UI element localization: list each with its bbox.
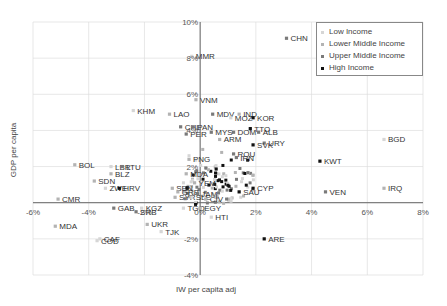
data-point: [73, 163, 76, 166]
data-point: [382, 138, 385, 141]
data-label: ALB: [263, 128, 278, 137]
cluster-point: [238, 167, 241, 170]
y-tick-label: -4%: [184, 271, 198, 280]
data-point: [210, 131, 213, 134]
data-point: [171, 187, 174, 190]
cluster-point: [222, 185, 225, 188]
cluster-point: [215, 164, 218, 167]
data-point: [263, 237, 266, 240]
y-tick-label: -2%: [184, 235, 198, 244]
legend-marker-icon: [321, 67, 324, 70]
data-point: [112, 207, 115, 210]
data-point: [146, 223, 149, 226]
cluster-point: [240, 180, 243, 183]
data-point: [104, 187, 107, 190]
x-axis-title: IW per capita adj: [176, 285, 236, 294]
data-point: [257, 131, 260, 134]
data-label: TJK: [165, 228, 180, 237]
cluster-point: [252, 178, 255, 181]
x-tick-label: -6%: [26, 208, 40, 217]
data-point: [251, 143, 254, 146]
y-tick-label: 2%: [187, 163, 199, 172]
cluster-point: [245, 184, 248, 187]
data-point: [168, 113, 171, 116]
data-label: VNM: [200, 96, 218, 105]
cluster-point: [239, 196, 242, 199]
data-label: BLZ: [115, 170, 130, 179]
data-label: IRQ: [388, 184, 402, 193]
data-point: [251, 116, 254, 119]
data-label: BOL: [79, 161, 96, 170]
y-axis-title: GDP per capita: [9, 122, 18, 177]
data-label: LAO: [174, 110, 190, 119]
data-label: HTI: [215, 213, 228, 222]
cluster-point: [214, 172, 217, 175]
y-tick-label: 4%: [187, 126, 199, 135]
data-label: BGD: [388, 135, 406, 144]
legend-label: Upper Middle Income: [329, 50, 405, 62]
data-point: [56, 198, 59, 201]
data-point: [185, 172, 188, 175]
cluster-point: [224, 174, 227, 177]
x-tick-label: -2%: [137, 208, 151, 217]
data-point: [204, 198, 207, 201]
y-tick-labels: -4%-2%2%4%6%8%10%: [182, 18, 198, 280]
cluster-point: [230, 159, 233, 162]
cluster-point: [221, 175, 224, 178]
data-point: [109, 165, 112, 168]
legend-item-high-income: High Income: [321, 62, 418, 74]
data-point: [235, 156, 238, 159]
y-tick-label: 10%: [182, 18, 198, 27]
legend-item-low-income: Low Income: [321, 26, 418, 38]
legend-label: Low Income: [329, 26, 372, 38]
data-point: [190, 196, 193, 199]
data-label: ARM: [224, 135, 242, 144]
legend: Low Income Lower Middle Income Upper Mid…: [316, 22, 423, 76]
data-point: [54, 225, 57, 228]
cluster-point: [220, 151, 223, 154]
data-label: IRN: [240, 154, 254, 163]
data-label: CMR: [62, 195, 80, 204]
data-label: MMR: [196, 52, 215, 61]
data-label: ARE: [268, 235, 284, 244]
data-label: CIV: [210, 195, 224, 204]
legend-marker-icon: [321, 31, 324, 34]
data-point: [318, 160, 321, 163]
legend-label: Lower Middle Income: [329, 38, 405, 50]
data-label: KHM: [137, 107, 155, 116]
data-point: [93, 179, 96, 182]
data-label: VEN: [330, 188, 347, 197]
data-label: CHN: [291, 34, 309, 43]
x-tick-label: 6%: [362, 208, 374, 217]
cluster-point: [226, 189, 229, 192]
cluster-point: [243, 172, 246, 175]
cluster-point: [252, 174, 255, 177]
cluster-point: [218, 178, 221, 181]
data-point: [238, 190, 241, 193]
cluster-point: [221, 190, 224, 193]
data-label: KOR: [257, 114, 275, 123]
legend-label: High Income: [329, 62, 374, 74]
cluster-point: [249, 181, 252, 184]
data-point: [324, 190, 327, 193]
cluster-point: [214, 175, 217, 178]
data-point: [285, 37, 288, 40]
cluster-point: [221, 164, 224, 167]
data-label: KWT: [324, 157, 342, 166]
cluster-point: [224, 179, 227, 182]
data-point: [179, 125, 182, 128]
x-tick-label: 4%: [306, 208, 318, 217]
cluster-point: [234, 171, 237, 174]
cluster-point: [226, 184, 229, 187]
data-point: [382, 187, 385, 190]
data-label: EGY: [204, 204, 222, 213]
data-point: [118, 187, 121, 190]
data-point: [187, 158, 190, 161]
cluster-point: [234, 185, 237, 188]
cluster-point: [188, 154, 191, 157]
cluster-point: [241, 177, 244, 180]
data-point: [132, 109, 135, 112]
data-point: [193, 181, 196, 184]
x-tick-label: 8%: [417, 208, 429, 217]
legend-marker-icon: [321, 43, 324, 46]
